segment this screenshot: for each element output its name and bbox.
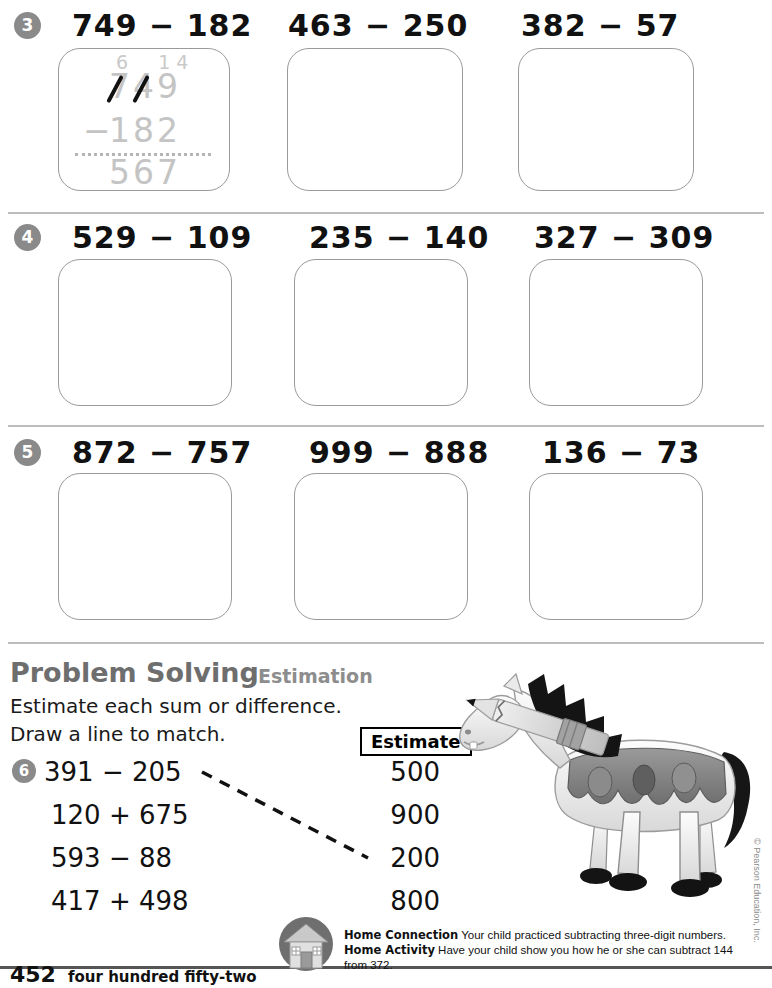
home-connection-label: Home Connection [344, 928, 458, 942]
estimation-expression[interactable]: 593 − 88 [51, 843, 172, 873]
estimation-expression[interactable]: 120 + 675 [51, 800, 189, 830]
problem-expression: 235 − 140 [309, 220, 489, 255]
estimate-value[interactable]: 800 [370, 886, 440, 916]
estimate-value[interactable]: 500 [370, 757, 440, 787]
worked-subtrahend: 182 [109, 111, 181, 150]
estimation-expression[interactable]: 417 + 498 [51, 886, 189, 916]
estimate-value[interactable]: 200 [370, 843, 440, 873]
problem-expression: 749 − 182 [72, 8, 252, 43]
problem-expression: 382 − 57 [521, 8, 679, 43]
page-number: 452 [10, 962, 56, 987]
copyright-notice: © Pearson Education, Inc. [752, 838, 762, 943]
worked-difference: 567 [109, 153, 181, 192]
row-separator [8, 212, 764, 214]
estimate-value[interactable]: 900 [370, 800, 440, 830]
answer-box[interactable] [294, 259, 468, 406]
horse-with-pencil-illustration [448, 660, 764, 922]
problem-expression: 327 − 309 [534, 220, 714, 255]
problem-solving-subheading: Estimation [258, 665, 373, 687]
section-separator [8, 642, 764, 644]
exercise-number-badge-6: 6 [12, 759, 36, 783]
exercise-number-badge-4: 4 [14, 224, 41, 251]
instruction-line-2: Draw a line to match. [10, 722, 226, 746]
answer-box[interactable] [518, 48, 694, 191]
problem-expression: 999 − 888 [309, 435, 489, 470]
exercise-number-badge-5: 5 [14, 439, 41, 466]
problem-expression: 529 − 109 [72, 220, 252, 255]
instruction-line-1: Estimate each sum or difference. [10, 694, 342, 718]
estimation-expression[interactable]: 391 − 205 [44, 757, 182, 787]
problem-expression: 136 − 73 [542, 435, 700, 470]
row-separator [8, 425, 764, 427]
problem-expression: 872 − 757 [72, 435, 252, 470]
answer-box[interactable] [287, 48, 463, 191]
home-activity-label: Home Activity [344, 943, 435, 957]
answer-box[interactable] [58, 259, 232, 406]
answer-box[interactable] [294, 473, 468, 620]
home-connection-body: Your child practiced subtracting three-d… [461, 929, 726, 941]
home-connection-text: Home Connection Your child practiced sub… [344, 928, 744, 974]
worked-minuend: 749 [109, 67, 181, 106]
answer-box[interactable] [529, 259, 703, 406]
page-number-words: four hundred fifty-two [68, 968, 257, 986]
house-icon [278, 916, 334, 972]
answer-box[interactable] [58, 473, 232, 620]
exercise-number-badge-3: 3 [14, 12, 41, 39]
answer-box[interactable] [529, 473, 703, 620]
answer-box-worked[interactable]: 6 14 749 − 182 567 [58, 48, 230, 191]
problem-expression: 463 − 250 [288, 8, 468, 43]
problem-solving-heading: Problem Solving [10, 657, 259, 688]
